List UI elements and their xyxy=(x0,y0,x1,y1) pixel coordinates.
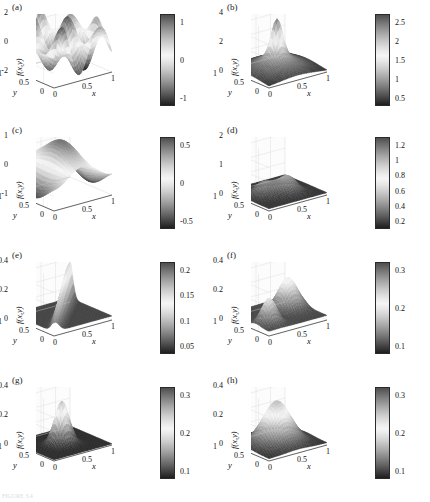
colorbar-gradient-f xyxy=(375,262,390,354)
xaxis-name-h: x xyxy=(307,461,311,471)
ztick-d-1: 1 xyxy=(219,160,223,169)
panel-g: (g)0.40.20f(x,y)10.5000.51yx0.30.20.1 xyxy=(0,373,215,498)
xaxis-name-a: x xyxy=(92,88,96,98)
yaxis-name-f: y xyxy=(228,335,232,345)
ztick-g-0: 0.4 xyxy=(0,381,8,390)
xtick-c-1: 0.5 xyxy=(82,205,92,214)
ztick-c-1: 0 xyxy=(4,160,8,169)
ytick-g-1: 0.5 xyxy=(19,451,29,460)
colorbar-tick-b-0: 2.5 xyxy=(395,18,405,27)
plot-area-e: 0.40.20f(x,y)10.5000.51yx xyxy=(36,262,154,354)
ztick-a-2: -2 xyxy=(1,66,8,75)
ztick-e-1: 0.2 xyxy=(0,285,8,294)
ztick-a-1: 0 xyxy=(4,37,8,46)
yaxis-name-b: y xyxy=(228,87,232,97)
xtick-d-2: 1 xyxy=(326,197,330,206)
colorbar-tick-g-0: 0.3 xyxy=(180,391,190,400)
colorbar-tick-f-1: 0.2 xyxy=(395,304,405,313)
colorbar-f: 0.30.20.1 xyxy=(375,262,430,354)
xtick-d-1: 0.5 xyxy=(297,205,307,214)
colorbar-tick-d-4: 0.4 xyxy=(395,201,405,210)
ztick-f-0: 0.4 xyxy=(213,256,223,265)
xtick-h-0: 0 xyxy=(268,463,272,472)
colorbar-tick-e-0: 0.2 xyxy=(180,266,190,275)
xtick-f-0: 0 xyxy=(268,338,272,347)
panel-label-d: (d) xyxy=(227,125,238,135)
xtick-g-1: 0.5 xyxy=(82,455,92,464)
colorbar-tick-d-3: 0.6 xyxy=(395,186,405,195)
plot-area-a: 20-2f(x,y)10.5000.51yx xyxy=(36,14,154,106)
panel-label-a: (a) xyxy=(12,2,22,12)
yaxis-name-e: y xyxy=(13,335,17,345)
surface-mesh-a xyxy=(36,14,112,75)
colorbar-tick-c-1: 0 xyxy=(180,179,184,188)
xtick-c-2: 1 xyxy=(111,197,115,206)
plot-area-f: 0.40.20f(x,y)10.5000.51yx xyxy=(251,262,369,354)
ztick-d-2: 0 xyxy=(219,189,223,198)
panel-label-c: (c) xyxy=(12,125,22,135)
colorbar-tick-a-2: -1 xyxy=(180,94,187,103)
xaxis-name-c: x xyxy=(92,211,96,221)
colorbar-tick-a-1: 0 xyxy=(180,56,184,65)
colorbar-tick-b-2: 1.5 xyxy=(395,56,405,65)
colorbar-tick-e-3: 0.05 xyxy=(180,342,194,351)
ztick-h-0: 0.4 xyxy=(213,381,223,390)
ztick-h-2: 0 xyxy=(219,439,223,448)
colorbar-tick-c-0: 0.5 xyxy=(180,141,190,150)
ytick-b-0: 1 xyxy=(213,69,217,78)
xaxis-name-d: x xyxy=(307,211,311,221)
ytick-f-0: 1 xyxy=(213,317,217,326)
ytick-d-1: 0.5 xyxy=(234,201,244,210)
xtick-c-0: 0 xyxy=(53,213,57,222)
colorbar-tick-d-2: 0.8 xyxy=(395,171,405,180)
xtick-e-0: 0 xyxy=(53,338,57,347)
ztick-c-0: 1 xyxy=(4,131,8,140)
ytick-f-1: 0.5 xyxy=(234,326,244,335)
xaxis-name-e: x xyxy=(92,336,96,346)
colorbar-tick-h-1: 0.2 xyxy=(395,429,405,438)
xtick-b-2: 1 xyxy=(326,74,330,83)
plot-area-b: 420f(x,y)10.5000.51yx xyxy=(251,14,369,106)
xtick-a-2: 1 xyxy=(111,74,115,83)
ytick-a-2: 0 xyxy=(40,87,44,96)
ztick-b-1: 2 xyxy=(219,37,223,46)
xtick-e-2: 1 xyxy=(111,322,115,331)
xtick-a-0: 0 xyxy=(53,90,57,99)
colorbar-c: 0.50-0.5 xyxy=(160,137,216,229)
yaxis-name-d: y xyxy=(228,210,232,220)
colorbar-gradient-g xyxy=(160,387,175,479)
ytick-b-1: 0.5 xyxy=(234,78,244,87)
colorbar-tick-d-0: 1.2 xyxy=(395,141,405,150)
xtick-d-0: 0 xyxy=(268,213,272,222)
yaxis-name-g: y xyxy=(13,460,17,470)
colorbar-d: 1.210.80.60.40.2 xyxy=(375,137,430,229)
ytick-c-2: 0 xyxy=(40,210,44,219)
ztick-e-0: 0.4 xyxy=(0,256,8,265)
plot-area-g: 0.40.20f(x,y)10.5000.51yx xyxy=(36,387,154,479)
panel-c: (c)10-1f(x,y)10.5000.51yx0.50-0.5 xyxy=(0,123,215,248)
colorbar-tick-g-1: 0.2 xyxy=(180,429,190,438)
ytick-a-1: 0.5 xyxy=(19,78,29,87)
zaxis-label-a: f(x,y) xyxy=(14,58,24,76)
panel-label-g: (g) xyxy=(12,375,23,385)
ztick-b-2: 0 xyxy=(219,66,223,75)
ytick-d-2: 0 xyxy=(255,210,259,219)
ytick-e-0: 1 xyxy=(0,317,2,326)
plot-area-d: 210f(x,y)10.5000.51yx xyxy=(251,137,369,229)
ytick-h-0: 1 xyxy=(213,442,217,451)
yaxis-name-a: y xyxy=(13,87,17,97)
ytick-h-1: 0.5 xyxy=(234,451,244,460)
panel-d: (d)210f(x,y)10.5000.51yx1.210.80.60.40.2 xyxy=(215,123,430,248)
panel-f: (f)0.40.20f(x,y)10.5000.51yx0.30.20.1 xyxy=(215,248,430,373)
colorbar-tick-b-1: 2 xyxy=(395,37,399,46)
zaxis-label-e: f(x,y) xyxy=(14,306,24,324)
panel-b: (b)420f(x,y)10.5000.51yx2.521.510.5 xyxy=(215,0,430,125)
colorbar-tick-a-0: 1 xyxy=(180,18,184,27)
colorbar-gradient-c xyxy=(160,137,175,229)
xtick-b-0: 0 xyxy=(268,90,272,99)
xaxis-name-g: x xyxy=(92,461,96,471)
colorbar-g: 0.30.20.1 xyxy=(160,387,216,479)
colorbar-tick-f-2: 0.1 xyxy=(395,342,405,351)
colorbar-h: 0.30.20.1 xyxy=(375,387,430,479)
xtick-e-1: 0.5 xyxy=(82,330,92,339)
